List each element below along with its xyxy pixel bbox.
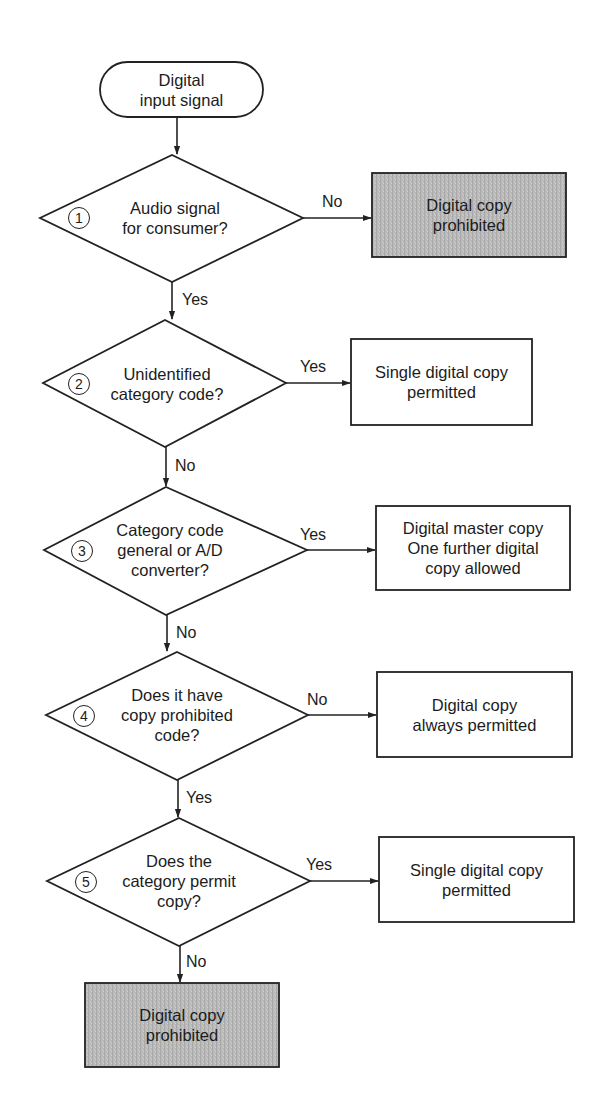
decision-5-line-2: category permit — [122, 871, 236, 891]
decision-5-line-1: Does the — [146, 851, 212, 871]
decision-4-line-3: code? — [155, 725, 200, 745]
outcome-2-text: Single digital copy permitted — [351, 339, 532, 425]
decision-5-text: Does the category permit copy? — [104, 849, 254, 913]
outcome-1-text: Digital copy prohibited — [372, 173, 566, 257]
outcome-5-line-2: permitted — [442, 880, 511, 900]
outcome-3-line-3: copy allowed — [425, 558, 520, 578]
outcome-2-line-1: Single digital copy — [375, 362, 508, 382]
outcome-3-line-2: One further digital — [407, 538, 538, 558]
decision-5-line-3: copy? — [157, 891, 201, 911]
start-line-1: Digital — [159, 70, 205, 90]
decision-1-text: Audio signal for consumer? — [95, 190, 255, 246]
outcome-4-text: Digital copy always permitted — [377, 672, 572, 757]
decision-3-text: Category code general or A/D converter? — [100, 518, 240, 582]
outcome-3-text: Digital master copy One further digital … — [376, 506, 570, 590]
decision-1-line-2: for consumer? — [122, 218, 227, 238]
outcome-5-line-1: Single digital copy — [410, 860, 543, 880]
step-number-4: 4 — [73, 705, 95, 727]
step-number-2: 2 — [68, 373, 90, 395]
decision-4-line-1: Does it have — [131, 685, 223, 705]
decision-3-down-label: No — [176, 624, 196, 642]
decision-2-right-label: Yes — [300, 358, 326, 376]
decision-2-text: Unidentified category code? — [92, 356, 242, 412]
decision-4-down-label: Yes — [186, 789, 212, 807]
outcome-3-line-1: Digital master copy — [403, 518, 543, 538]
decision-2-down-label: No — [175, 457, 195, 475]
decision-4-right-label: No — [307, 691, 327, 709]
decision-3-line-1: Category code — [116, 520, 223, 540]
outcome-5-text: Single digital copy permitted — [379, 837, 574, 922]
decision-2-line-2: category code? — [111, 384, 224, 404]
decision-4-line-2: copy prohibited — [121, 705, 233, 725]
start-terminal-text: Digital input signal — [100, 62, 263, 117]
decision-3-right-label: Yes — [300, 526, 326, 544]
decision-3-line-2: general or A/D — [117, 540, 222, 560]
decision-1-down-label: Yes — [182, 291, 208, 309]
outcome-2-line-2: permitted — [407, 382, 476, 402]
decision-5-right-label: Yes — [306, 856, 332, 874]
decision-1-right-label: No — [322, 193, 342, 211]
outcome-1-line-1: Digital copy — [426, 195, 511, 215]
outcome-4-line-2: always permitted — [413, 715, 537, 735]
decision-1-line-1: Audio signal — [130, 198, 220, 218]
step-number-3: 3 — [71, 540, 93, 562]
end-line-1: Digital copy — [139, 1005, 224, 1025]
decision-2-line-1: Unidentified — [123, 364, 210, 384]
step-number-1: 1 — [68, 207, 90, 229]
end-line-2: prohibited — [146, 1025, 218, 1045]
decision-3-line-3: converter? — [131, 560, 209, 580]
step-number-5: 5 — [75, 871, 97, 893]
decision-5-down-label: No — [186, 953, 206, 971]
start-line-2: input signal — [140, 90, 223, 110]
outcome-1-line-2: prohibited — [433, 215, 505, 235]
outcome-4-line-1: Digital copy — [432, 695, 517, 715]
decision-4-text: Does it have copy prohibited code? — [102, 683, 252, 747]
end-box-text: Digital copy prohibited — [85, 983, 279, 1067]
